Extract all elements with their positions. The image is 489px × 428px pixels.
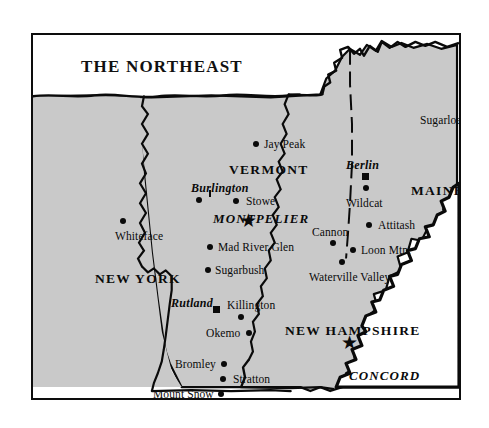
resort-dot-jay-peak xyxy=(253,141,259,147)
resort-label-sugarloaf: Sugarloaf xyxy=(420,115,461,127)
resort-dot-wildcat xyxy=(363,185,369,191)
resort-label-sugarbush: Sugarbush xyxy=(215,265,264,277)
city-label-burlington: Burlington xyxy=(191,182,249,194)
state-label-new-york: NEW YORK xyxy=(95,272,181,286)
resort-dot-whiteface xyxy=(120,218,126,224)
resort-dot-waterville-valley xyxy=(339,259,345,265)
capital-label-concord: CONCORD xyxy=(349,369,420,382)
map-screenshot: THE NORTHEAST VERMONT MAINE NEW YORK NEW… xyxy=(0,0,489,428)
resort-label-attitash: Attitash xyxy=(378,220,415,232)
resort-label-stratton: Stratton xyxy=(233,374,270,386)
capital-label-montpelier: MONTPELIER xyxy=(213,212,309,225)
resort-label-mad-river-glen: Mad River Glen xyxy=(218,242,294,254)
city-tick-burlington xyxy=(209,190,211,197)
resort-label-whiteface: Whiteface xyxy=(115,231,163,243)
resort-label-loon-mtn: Loon Mtn. xyxy=(361,245,411,257)
resort-dot-okemo xyxy=(246,330,252,336)
city-label-rutland: Rutland xyxy=(171,297,213,309)
resort-label-mount-snow: Mount Snow xyxy=(153,389,214,400)
map-frame: THE NORTHEAST VERMONT MAINE NEW YORK NEW… xyxy=(31,33,461,400)
resort-dot-stowe xyxy=(233,198,239,204)
city-square-rutland xyxy=(213,306,220,313)
resort-label-jay-peak: Jay Peak xyxy=(264,139,305,151)
resort-dot-mount-snow xyxy=(218,391,224,397)
resort-dot-killington xyxy=(238,314,244,320)
resort-dot-loon-mtn xyxy=(350,247,356,253)
resort-label-bromley: Bromley xyxy=(175,359,216,371)
state-label-vermont: VERMONT xyxy=(229,163,309,177)
resort-label-stowe: Stowe xyxy=(246,196,275,208)
resort-dot-attitash xyxy=(366,222,372,228)
resort-dot-cannon xyxy=(330,240,336,246)
page-title: THE NORTHEAST xyxy=(81,57,243,77)
resort-label-okemo: Okemo xyxy=(206,328,240,340)
resort-dot-mad-river-glen xyxy=(207,244,213,250)
resort-dot-stratton xyxy=(220,376,226,382)
city-label-berlin: Berlin xyxy=(346,159,379,171)
resort-label-wildcat: Wildcat xyxy=(346,198,383,210)
city-dot-burlington xyxy=(196,197,202,203)
city-square-berlin xyxy=(362,173,369,180)
resort-dot-sugarbush xyxy=(205,267,211,273)
resort-label-waterville-valley: Waterville Valley xyxy=(309,272,390,284)
resort-label-cannon: Cannon xyxy=(312,227,348,239)
resort-label-killington: Killington xyxy=(227,300,275,312)
state-label-maine: MAINE xyxy=(411,184,461,198)
resort-dot-bromley xyxy=(221,361,227,367)
